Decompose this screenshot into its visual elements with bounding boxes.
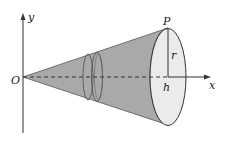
x-axis-label: x bbox=[209, 79, 216, 92]
radius-label: r bbox=[171, 49, 177, 62]
origin-label: O bbox=[11, 74, 20, 87]
y-axis-label: y bbox=[27, 11, 35, 24]
y-axis-arrow-icon bbox=[21, 13, 26, 20]
height-label: h bbox=[163, 81, 170, 94]
point-p-label: P bbox=[162, 15, 171, 28]
cone-diagram: y O P r h x bbox=[0, 0, 227, 141]
